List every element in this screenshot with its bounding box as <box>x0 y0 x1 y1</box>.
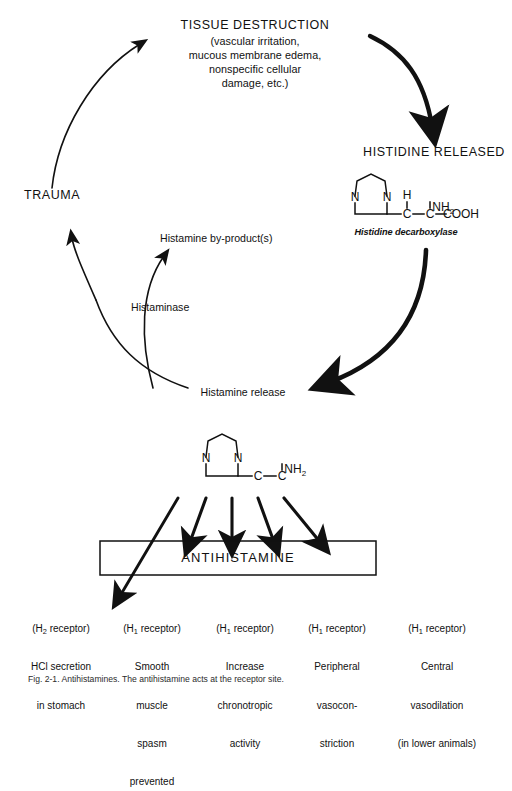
receptor-3-header: (H1 receptor) <box>195 623 295 636</box>
antihistamine-arrows <box>120 498 320 596</box>
receptor-4-subscript: 1 <box>319 627 323 636</box>
tissue-destruction-heading: TISSUE DESTRUCTION <box>181 18 330 33</box>
receptor-effect-column-3: (H1 receptor) Increase chronotropic acti… <box>195 598 295 776</box>
histamine-chain-carbon-alpha: C <box>251 469 265 483</box>
receptor-effect-column-5: (H1 receptor) Central vasodilation (in l… <box>376 598 498 776</box>
receptor-5-subscript: 1 <box>419 627 423 636</box>
receptor-3-line-1: Increase <box>195 661 295 674</box>
histidine-decarboxylase-label: Histidine decarboxylase <box>355 227 458 238</box>
histamine-ring-nitrogen-left: N <box>199 451 213 465</box>
receptor-2-line-2: muscle <box>104 700 200 713</box>
receptor-1-header: (H2 receptor) <box>8 623 114 636</box>
receptor-1-prefix: (H <box>32 623 43 634</box>
histamine-byproducts-label: Histamine by-product(s) <box>160 232 272 245</box>
receptor-2-subscript: 1 <box>134 627 138 636</box>
receptor-3-line-2: chronotropic <box>195 700 295 713</box>
receptor-4-prefix: (H <box>308 623 319 634</box>
receptor-5-header: (H1 receptor) <box>376 623 498 636</box>
tissue-destruction-line-3: nonspecific cellular <box>209 63 301 76</box>
receptor-5-line-3: (in lower animals) <box>376 738 498 751</box>
receptor-2-line-4: prevented <box>104 776 200 789</box>
arrow-to-receptor-4 <box>258 498 274 542</box>
tissue-destruction-line-2: mucous membrane edema, <box>189 49 322 62</box>
histidine-ring-nitrogen-left: N <box>348 190 362 204</box>
arrow-to-receptor-5 <box>284 498 320 542</box>
arc-tissue-to-histidine <box>370 36 432 126</box>
receptor-3-suffix: receptor) <box>231 623 274 634</box>
tissue-destruction-line-4: damage, etc.) <box>222 77 289 90</box>
histidine-amine-text: NH <box>432 200 449 214</box>
histaminase-label: Histaminase <box>131 301 189 314</box>
receptor-1-line-2: in stomach <box>8 700 114 713</box>
figure-caption: Fig. 2-1. Antihistamines. The antihistam… <box>28 674 284 684</box>
histidine-released-label: HISTIDINE RELEASED <box>363 145 505 160</box>
receptor-3-prefix: (H <box>216 623 227 634</box>
receptor-3-line-3: activity <box>195 738 295 751</box>
histamine-ring-nitrogen-right: N <box>231 451 245 465</box>
histamine-amine-subscript: 2 <box>302 469 306 478</box>
tissue-destruction-line-1: (vascular irritation, <box>210 35 299 48</box>
histidine-amine-subscript: 2 <box>450 207 454 216</box>
histidine-hydrogen-substituent: H <box>400 188 414 202</box>
receptor-4-header: (H1 receptor) <box>290 623 384 636</box>
histamine-amine-substituent: NH2 <box>271 448 306 490</box>
histamine-amine-text: NH <box>284 462 301 476</box>
receptor-2-line-3: spasm <box>104 738 200 751</box>
receptor-5-suffix: receptor) <box>423 623 466 634</box>
receptor-5-line-1: Central <box>376 661 498 674</box>
receptor-1-line-1: HCl secretion <box>8 661 114 674</box>
receptor-effect-column-4: (H1 receptor) Peripheral vasocon- strict… <box>290 598 384 776</box>
receptor-2-line-1: Smooth <box>104 661 200 674</box>
receptor-4-suffix: receptor) <box>323 623 366 634</box>
receptor-effect-column-1: (H2 receptor) HCl secretion in stomach <box>8 598 114 738</box>
receptor-2-prefix: (H <box>123 623 134 634</box>
receptor-3-subscript: 1 <box>227 627 231 636</box>
arrow-to-receptor-1 <box>120 498 178 596</box>
arc-to-trauma <box>72 238 96 300</box>
arrow-to-receptor-2 <box>190 498 206 542</box>
arc-trauma-to-tissue <box>52 44 140 188</box>
receptor-5-line-2: vasodilation <box>376 700 498 713</box>
receptor-1-suffix: receptor) <box>47 623 90 634</box>
receptor-4-line-1: Peripheral <box>290 661 384 674</box>
receptor-effect-column-2: (H1 receptor) Smooth muscle spasm preven… <box>104 598 200 791</box>
receptor-5-prefix: (H <box>408 623 419 634</box>
histidine-chain-carbon-alpha: C <box>400 207 414 221</box>
receptor-2-header: (H1 receptor) <box>104 623 200 636</box>
antihistamine-box-label: ANTIHISTAMINE <box>181 550 295 565</box>
trauma-label: TRAUMA <box>24 188 80 203</box>
histamine-release-label: Histamine release <box>201 386 286 399</box>
receptor-2-suffix: receptor) <box>138 623 181 634</box>
arc-histidine-to-release <box>330 250 426 382</box>
receptor-1-subscript: 2 <box>43 627 47 636</box>
receptor-4-line-2: vasocon- <box>290 700 384 713</box>
receptor-4-line-3: striction <box>290 738 384 751</box>
histidine-amine-substituent: NH2 <box>419 186 454 228</box>
histidine-ring-nitrogen-right: N <box>380 190 394 204</box>
